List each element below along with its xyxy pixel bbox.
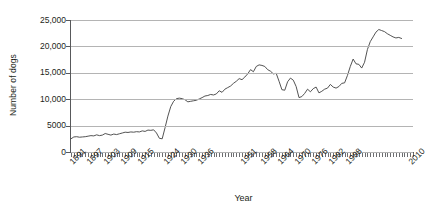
x-axis-tick-mark [222, 153, 223, 157]
gridline [71, 20, 413, 21]
x-axis-title-text: Year [234, 193, 252, 203]
x-axis-tick-mark [385, 153, 386, 157]
y-axis-tick-mark [66, 73, 71, 74]
y-axis-tick-mark [66, 20, 71, 21]
x-axis-tick-labels: 1891189719031909191519241930193619511958… [0, 158, 431, 194]
x-axis-tick-mark [367, 153, 368, 157]
x-axis-tick-mark [231, 153, 232, 157]
x-axis-tick-mark [382, 153, 383, 157]
gridline [71, 99, 413, 100]
x-axis-tick-mark [236, 153, 237, 157]
x-axis-tick-mark [159, 153, 160, 157]
y-axis-tick-mark [66, 99, 71, 100]
y-axis-title: Number of dogs [0, 0, 26, 170]
x-axis-tick-mark [399, 153, 400, 157]
x-axis-tick-mark [379, 153, 380, 157]
x-axis-tick-mark [402, 153, 403, 157]
gridline [71, 46, 413, 47]
y-axis-tick-label: 20,000 [26, 42, 66, 51]
x-axis-tick-mark [370, 153, 371, 157]
x-axis-tick-mark [404, 153, 405, 157]
x-axis-title: Year [0, 193, 431, 203]
y-axis-tick-label: 15,000 [26, 68, 66, 77]
x-axis-tick-mark [225, 153, 226, 157]
y-axis-tick-mark [66, 126, 71, 127]
x-axis-tick-mark [157, 153, 158, 157]
y-axis-tick-mark [66, 152, 71, 153]
x-axis-tick-mark [373, 153, 374, 157]
x-axis-tick-mark [219, 153, 220, 157]
line-chart: Number of dogs 0500010,00015,00020,00025… [0, 0, 431, 213]
x-axis-tick-mark [376, 153, 377, 157]
y-axis-tick-label: 5000 [26, 121, 66, 130]
x-axis-tick-mark [390, 153, 391, 157]
x-axis-tick-mark [365, 153, 366, 157]
x-axis-tick-mark [393, 153, 394, 157]
y-axis-tick-label: 25,000 [26, 16, 66, 25]
x-axis-tick-mark [396, 153, 397, 157]
x-axis-tick-mark [233, 153, 234, 157]
plot-area [71, 20, 413, 152]
y-axis-title-text: Number of dogs [8, 54, 18, 116]
x-axis-tick-mark [387, 153, 388, 157]
x-axis-tick-mark [216, 153, 217, 157]
y-axis-tick-label: 0 [26, 148, 66, 157]
x-axis-tick-mark [228, 153, 229, 157]
data-series-line [71, 20, 413, 152]
y-axis-tick-mark [66, 46, 71, 47]
y-axis-tick-label: 10,000 [26, 95, 66, 104]
gridline [71, 126, 413, 127]
gridline [71, 73, 413, 74]
